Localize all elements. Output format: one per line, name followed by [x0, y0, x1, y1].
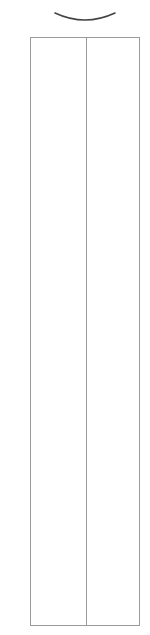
two-column-container — [30, 37, 140, 626]
left-column — [31, 38, 87, 625]
right-column — [87, 38, 139, 625]
arc-curve — [0, 0, 150, 30]
